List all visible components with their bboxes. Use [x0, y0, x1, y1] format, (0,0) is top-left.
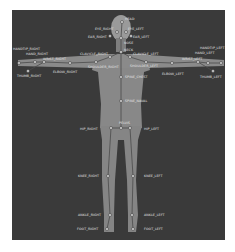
skeleton-diagram: HEADEYE_RIGHTEYE_LEFTEAR_RIGHTEAR_LEFTNO… [0, 0, 235, 252]
label-hip_right: HIP_RIGHT [80, 127, 98, 131]
joint-nose [120, 37, 123, 40]
label-hand_left: HAND_LEFT [195, 51, 214, 55]
joint-foot_right [106, 228, 109, 231]
joint-hip_right [110, 127, 113, 130]
joint-ankle_left [131, 214, 134, 217]
joint-clavicle_right [109, 56, 112, 59]
joint-knee_left [132, 175, 135, 178]
joint-elbow_right [69, 62, 72, 65]
joint-hand_left [207, 62, 210, 65]
label-foot_left: FOOT_LEFT [144, 227, 163, 231]
joint-elbow_left [171, 62, 174, 65]
label-shoulder_right: SHOULDER_RIGHT [88, 65, 119, 69]
joint-foot_left [132, 228, 135, 231]
joint-head [121, 21, 124, 24]
label-foot_right: FOOT_RIGHT [77, 227, 98, 231]
label-clavicle_left: CLAVICLE_LEFT [133, 52, 159, 56]
joint-ankle_right [109, 214, 112, 217]
label-head: HEAD [125, 17, 135, 21]
label-ear_right: EAR_RIGHT [88, 35, 107, 39]
label-spine_naval: SPINE_NAVAL [125, 99, 147, 103]
joint-handtip_right [18, 62, 21, 65]
label-handtip_left: HANDTIP_LEFT [200, 46, 225, 50]
joint-pelvis [120, 127, 123, 130]
label-handtip_right: HANDTIP_RIGHT [13, 47, 40, 51]
joint-spine_chest [120, 76, 123, 79]
label-wrist_left: WRIST_LEFT [182, 57, 202, 61]
label-elbow_left: ELBOW_LEFT [162, 72, 184, 76]
joint-neck [120, 51, 123, 54]
label-ankle_right: ANKLE_RIGHT [78, 213, 101, 217]
joint-thumb_right [27, 70, 30, 73]
joint-ear_right [109, 35, 112, 38]
label-eye_right: EYE_RIGHT [95, 27, 113, 31]
label-clavicle_right: CLAVICLE_RIGHT [80, 52, 108, 56]
label-eye_left: EYE_LEFT [128, 27, 144, 31]
label-spine_chest: SPINE_CHEST [125, 75, 148, 79]
label-knee_left: KNEE_LEFT [144, 174, 163, 178]
label-hip_left: HIP_LEFT [144, 127, 159, 131]
joint-eye_right [116, 31, 119, 34]
joint-clavicle_left [129, 56, 132, 59]
joint-spine_naval [120, 100, 123, 103]
label-ankle_left: ANKLE_LEFT [144, 213, 165, 217]
label-knee_right: KNEE_RIGHT [78, 174, 99, 178]
label-pelvis: PELVIS [119, 121, 130, 125]
joint-knee_right [107, 175, 110, 178]
joint-thumb_left [212, 70, 215, 73]
label-ear_left: EAR_LEFT [133, 35, 149, 39]
joint-handtip_left [220, 62, 223, 65]
joint-shoulder_right [95, 61, 98, 64]
label-thumb_left: THUMB_LEFT [199, 75, 222, 79]
joint-hand_right [34, 61, 37, 64]
label-elbow_right: ELBOW_RIGHT [53, 70, 77, 74]
label-hand_right: HAND_RIGHT [26, 52, 48, 56]
label-thumb_right: THUMB_RIGHT [16, 74, 41, 78]
label-nose: NOSE [124, 41, 133, 45]
label-wrist_right: WRIST_RIGHT [43, 57, 66, 61]
joint-hip_left [129, 127, 132, 130]
label-shoulder_left: SHOULDER_LEFT [130, 64, 158, 68]
